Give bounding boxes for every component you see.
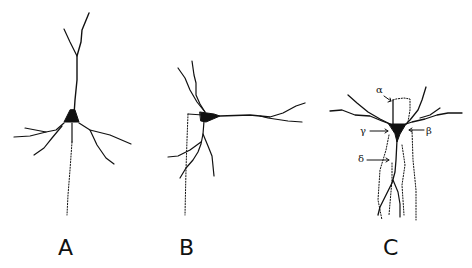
neuron-a — [14, 13, 131, 215]
neuron-diagram — [0, 0, 472, 268]
label-delta: δ — [358, 153, 364, 164]
label-alpha: α — [376, 84, 383, 95]
label-beta: β — [426, 125, 432, 136]
panel-label-b: B — [179, 235, 194, 260]
label-gamma: γ — [360, 125, 366, 136]
panel-label-c: C — [383, 235, 398, 260]
neuron-b — [168, 61, 305, 215]
panel-label-a: A — [58, 235, 73, 260]
neuron-c — [330, 87, 462, 220]
